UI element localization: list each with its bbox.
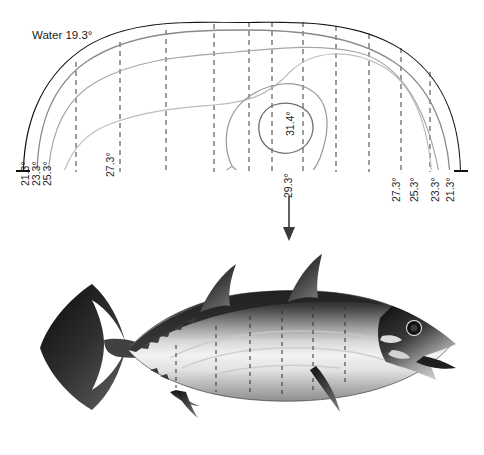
center-temperature-labels: 31.4° 29.3° (282, 111, 296, 198)
label-right-27-3: 27.3° (390, 177, 402, 202)
label-right-25-3: 25.3° (408, 177, 420, 202)
label-right-23-3: 23.3° (429, 177, 441, 202)
water-temperature-label: Water 19.3° (32, 29, 92, 41)
right-temperature-labels: 27.3° 25.3° 23.3° 21.3° (390, 177, 456, 202)
label-left-25-3: 25.3° (41, 161, 53, 186)
tuna-illustration-panel (0, 240, 484, 455)
second-dorsal-fin (288, 254, 322, 302)
label-core-31-4: 31.4° (284, 111, 296, 136)
down-arrow-icon (283, 196, 295, 241)
contour-panel: Water 19.3° (0, 0, 484, 250)
tuna-svg (0, 240, 484, 455)
label-29-3: 29.3° (282, 173, 294, 198)
label-left-27-3: 27.3° (104, 152, 116, 177)
tuna-pupil (411, 325, 418, 332)
section-lines-group (76, 22, 430, 172)
contour-23-3 (37, 30, 450, 178)
anal-fin (176, 390, 198, 418)
label-right-21-3: 21.3° (444, 177, 456, 202)
contour-svg: Water 19.3° (0, 0, 484, 250)
figure-thermal-tuna: Water 19.3° (0, 0, 484, 455)
contour-21-3 (23, 22, 461, 172)
left-temperature-labels: 21.3° 23.3° 25.3° 27.3° (19, 152, 116, 186)
contour-29-3-branch (194, 166, 232, 184)
